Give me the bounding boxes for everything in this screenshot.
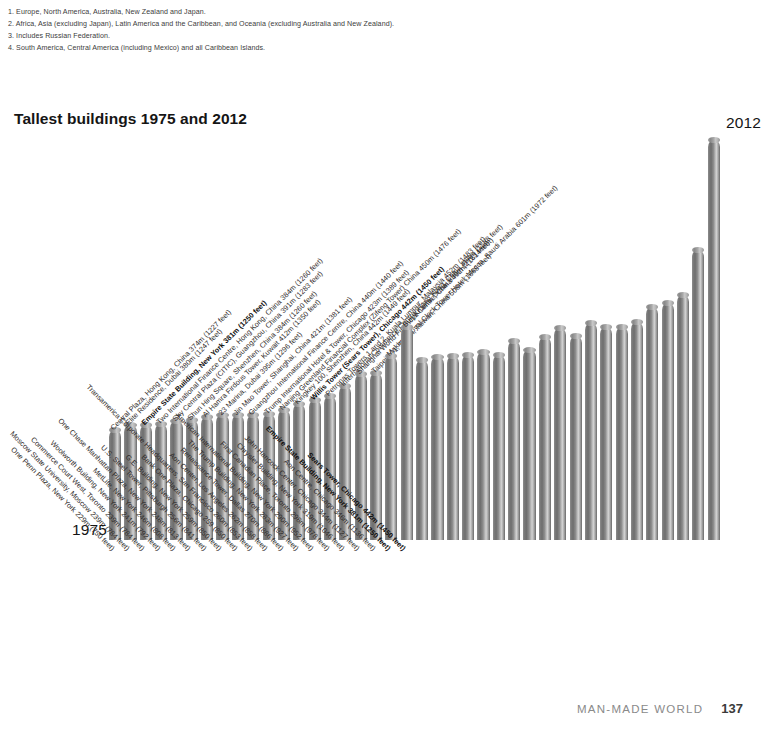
bars-layer: One Penn Plaza, New York 229m (750 feet)…	[0, 0, 761, 732]
bar	[646, 307, 658, 540]
footer-section-title: MAN-MADE WORLD	[577, 703, 703, 715]
bar	[431, 357, 443, 540]
bar-cap	[585, 320, 597, 326]
bar-cap	[462, 352, 474, 358]
bar	[462, 355, 474, 540]
bar	[554, 328, 566, 540]
bar	[662, 303, 674, 540]
bar	[401, 327, 413, 540]
bar	[585, 323, 597, 540]
bar	[447, 356, 459, 540]
footer-page-number: 137	[721, 701, 743, 716]
bar-cap	[416, 357, 428, 363]
bar-cap	[447, 353, 459, 359]
bar-cap	[477, 349, 489, 355]
bar-cap	[677, 292, 689, 298]
bar	[570, 336, 582, 540]
bar-cap	[708, 137, 720, 143]
bar	[600, 327, 612, 540]
bar-cap	[508, 338, 520, 344]
bar	[631, 322, 643, 540]
bar-cap	[692, 247, 704, 253]
bar-cap	[600, 324, 612, 330]
bar	[677, 295, 689, 540]
bar	[493, 355, 505, 540]
bar	[692, 250, 704, 540]
bar	[508, 341, 520, 540]
bar	[385, 356, 397, 540]
bar-cap	[554, 325, 566, 331]
bar	[708, 140, 720, 540]
bar-chart: One Penn Plaza, New York 229m (750 feet)…	[0, 0, 761, 732]
bar	[523, 350, 535, 540]
page-footer: MAN-MADE WORLD 137	[577, 701, 743, 716]
bar-cap	[646, 304, 658, 310]
bar-cap	[662, 300, 674, 306]
bar-cap	[616, 324, 628, 330]
bar	[539, 337, 551, 540]
bar	[416, 360, 428, 540]
bar-cap	[431, 354, 443, 360]
bar	[477, 352, 489, 540]
bar-cap	[570, 333, 582, 339]
bar-label-2012: Burj Khalifa, Dubai 830m (2723 feet)	[401, 239, 491, 329]
bar-cap	[523, 347, 535, 353]
bar-cap	[493, 352, 505, 358]
bar-cap	[631, 319, 643, 325]
bar	[616, 327, 628, 540]
bar-cap	[539, 334, 551, 340]
